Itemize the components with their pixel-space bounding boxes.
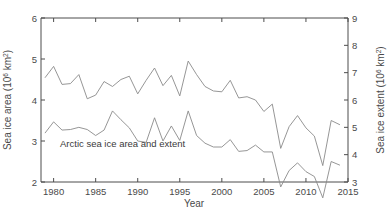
- y-right-tick-label: 7: [352, 67, 357, 78]
- x-tick-label: 1990: [127, 186, 148, 197]
- series-line-sea-ice-extent: [45, 111, 339, 198]
- y-right-tick-label: 5: [352, 122, 357, 133]
- svg-text:Sea ice extent (106 km2): Sea ice extent (106 km2): [375, 46, 386, 153]
- y-left-title-main: Sea ice area (10: [2, 76, 13, 150]
- y-right-tick-label: 8: [352, 40, 357, 51]
- y-left-tick-label: 2: [32, 177, 37, 188]
- chart-annotation: Arctic sea ice area and extent: [60, 138, 186, 149]
- y-axis-right-ticks: 3456789: [344, 13, 357, 188]
- y-left-tick-label: 5: [32, 54, 37, 65]
- x-tick-label: 1995: [169, 186, 190, 197]
- x-axis-ticks: 19801985199019952000200520102015: [43, 18, 359, 197]
- y-axis-left-ticks: 23456: [32, 13, 45, 188]
- series-line-sea-ice-area: [45, 61, 339, 166]
- x-tick-label: 2000: [211, 186, 232, 197]
- x-tick-label: 2010: [295, 186, 316, 197]
- data-series-group: [45, 61, 339, 198]
- x-tick-label: 2015: [337, 186, 358, 197]
- y-axis-right-title: Sea ice extent (106 km2): [375, 46, 386, 153]
- y-left-tick-label: 4: [32, 95, 37, 106]
- svg-text:Sea ice area (106 km2): Sea ice area (106 km2): [2, 50, 13, 150]
- plot-frame: [41, 18, 348, 182]
- y-axis-left-title: Sea ice area (106 km2): [2, 50, 13, 150]
- chart-figure: 19801985199019952000200520102015 23456 3…: [0, 0, 392, 213]
- x-tick-label: 1985: [85, 186, 106, 197]
- y-right-tick-label: 3: [352, 177, 357, 188]
- line-chart: 19801985199019952000200520102015 23456 3…: [0, 0, 392, 213]
- y-left-title-tail: km: [2, 57, 13, 73]
- x-tick-label: 1980: [43, 186, 64, 197]
- y-right-tick-label: 6: [352, 95, 357, 106]
- y-left-tick-label: 6: [32, 13, 37, 24]
- y-right-tick-label: 4: [352, 149, 357, 160]
- y-right-tick-label: 9: [352, 13, 357, 24]
- x-axis-title: Year: [184, 198, 205, 209]
- y-right-title-main: Sea ice extent (10: [375, 73, 386, 154]
- y-right-title-tail: km: [375, 53, 386, 69]
- y-left-tick-label: 3: [32, 136, 37, 147]
- x-tick-label: 2005: [253, 186, 274, 197]
